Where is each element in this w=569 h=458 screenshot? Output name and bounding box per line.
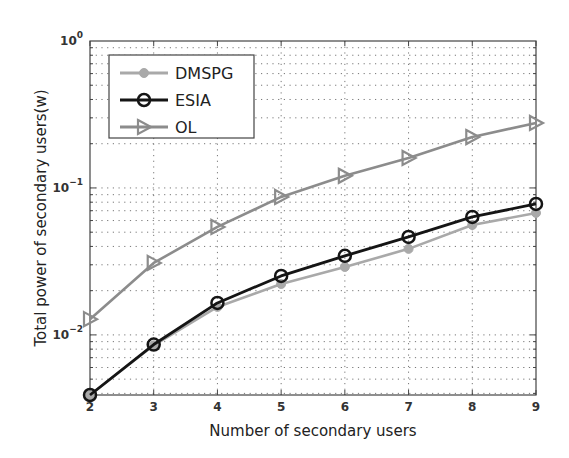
y-axis-label: Total power of secondary users(w)	[32, 89, 50, 347]
data-point-marker	[404, 244, 413, 253]
x-tick-label: 9	[532, 400, 540, 414]
x-tick-label: 7	[404, 400, 412, 414]
x-tick-label: 4	[213, 400, 221, 414]
legend-label: DMSPG	[175, 64, 233, 83]
x-tick-label: 8	[468, 400, 476, 414]
data-series	[84, 116, 543, 401]
x-tick-label: 6	[341, 400, 349, 414]
legend: DMSPGESIAOL	[109, 55, 254, 138]
x-tick-label: 3	[150, 400, 158, 414]
y-tick-label: 100	[60, 30, 83, 48]
legend-marker-icon	[140, 69, 149, 78]
line-chart: 2345678910010−110−2 DMSPGESIAOL Number o…	[0, 0, 569, 458]
x-axis-label: Number of secondary users	[209, 422, 416, 440]
y-tick-label: 10−2	[52, 324, 83, 342]
x-tick-label: 5	[277, 400, 285, 414]
y-tick-label: 10−1	[52, 177, 83, 195]
legend-label: OL	[175, 118, 197, 137]
data-point-marker	[340, 262, 349, 271]
legend-label: ESIA	[175, 91, 211, 110]
